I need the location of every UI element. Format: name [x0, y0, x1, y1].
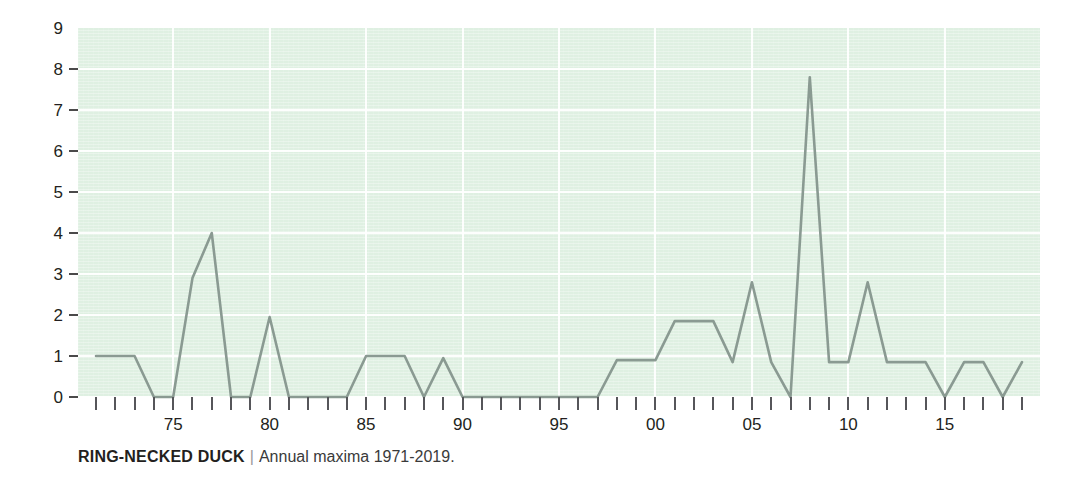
chart-figure: 0123456789 758085909500051015 RING-NECKE…: [0, 0, 1084, 482]
x-axis-tick-label: 95: [550, 415, 569, 435]
x-axis-tick-label: 10: [839, 415, 858, 435]
y-axis-tick-label: 7: [54, 102, 63, 119]
x-axis-tick-label: 85: [357, 415, 376, 435]
x-axis-tick-mark: [886, 397, 888, 410]
y-axis-tick-mark: [69, 314, 78, 316]
y-axis-tick-mark: [69, 150, 78, 152]
y-axis-tick-label: 2: [54, 307, 63, 324]
y-axis-tick-mark: [69, 191, 78, 193]
x-axis-tick-mark: [597, 397, 599, 410]
y-axis-tick: 7: [54, 100, 78, 120]
x-axis-tick-mark: [423, 397, 425, 410]
x-axis-tick-mark: [500, 397, 502, 410]
x-axis-tick-mark: [134, 397, 136, 410]
x-axis-tick-mark: [635, 397, 637, 410]
y-axis-tick-label: 1: [54, 348, 63, 365]
x-axis-tick-mark: [230, 397, 232, 410]
x-axis-tick-mark: [925, 397, 927, 410]
caption-species: RING-NECKED DUCK: [78, 448, 245, 465]
y-axis-tick: 0: [54, 387, 78, 407]
x-axis-tick-label: 15: [935, 415, 954, 435]
y-axis-tick-label: 4: [54, 225, 63, 242]
x-axis-tick-mark: [905, 397, 907, 410]
x-axis-tick-mark: [404, 397, 406, 410]
x-axis-tick-mark: [365, 397, 367, 410]
x-axis-tick-mark: [616, 397, 618, 410]
x-axis-tick-mark: [982, 397, 984, 410]
x-axis-tick-mark: [654, 397, 656, 410]
y-axis-tick: 3: [54, 264, 78, 284]
y-axis-tick-mark: [69, 396, 78, 398]
x-axis-tick-mark: [790, 397, 792, 410]
y-axis-tick: 9: [54, 18, 78, 38]
caption: RING-NECKED DUCK|Annual maxima 1971-2019…: [78, 447, 455, 466]
x-axis-tick-mark: [577, 397, 579, 410]
caption-separator: |: [245, 448, 259, 465]
caption-subtitle: Annual maxima 1971-2019.: [259, 448, 455, 465]
x-axis-tick-mark: [346, 397, 348, 410]
x-axis-tick-label: 05: [742, 415, 761, 435]
x-axis-tick-mark: [751, 397, 753, 410]
y-axis-tick: 2: [54, 305, 78, 325]
x-axis-tick-mark: [269, 397, 271, 410]
y-axis: 0123456789: [0, 0, 78, 400]
plot-area: [78, 28, 1040, 397]
x-axis-tick-mark: [944, 397, 946, 410]
y-axis-tick-label: 5: [54, 184, 63, 201]
x-axis-tick-mark: [770, 397, 772, 410]
x-axis-tick-mark: [674, 397, 676, 410]
y-axis-tick-label: 0: [54, 389, 63, 406]
x-axis-tick-mark: [828, 397, 830, 410]
x-axis-tick-label: 90: [453, 415, 472, 435]
x-axis-tick-mark: [847, 397, 849, 410]
x-axis-tick-mark: [558, 397, 560, 410]
x-axis-tick-mark: [867, 397, 869, 410]
y-axis-tick-mark: [69, 109, 78, 111]
y-axis-tick-mark: [69, 232, 78, 234]
x-axis-tick-label: 75: [164, 415, 183, 435]
x-axis-tick-mark: [519, 397, 521, 410]
x-axis-tick-mark: [249, 397, 251, 410]
y-axis-tick: 8: [54, 59, 78, 79]
x-axis-tick-mark: [191, 397, 193, 410]
x-axis-tick-mark: [539, 397, 541, 410]
x-axis-tick-mark: [384, 397, 386, 410]
x-axis-tick-mark: [442, 397, 444, 410]
x-axis-tick-mark: [172, 397, 174, 410]
x-axis-tick-mark: [481, 397, 483, 410]
y-axis-tick-label: 8: [54, 61, 63, 78]
x-axis-tick-mark: [114, 397, 116, 410]
x-axis-tick-label: 00: [646, 415, 665, 435]
y-axis-tick: 6: [54, 141, 78, 161]
y-axis-tick-mark: [69, 273, 78, 275]
y-axis-tick: 5: [54, 182, 78, 202]
x-axis: 758085909500051015: [78, 397, 1040, 442]
y-axis-tick-label: 6: [54, 143, 63, 160]
x-axis-tick-mark: [809, 397, 811, 410]
y-axis-tick-mark: [69, 355, 78, 357]
y-axis-tick-label: 9: [54, 20, 63, 37]
y-axis-tick-mark: [69, 68, 78, 70]
x-axis-tick-mark: [288, 397, 290, 410]
y-axis-tick-label: 3: [54, 266, 63, 283]
x-axis-tick-mark: [693, 397, 695, 410]
x-axis-tick-mark: [963, 397, 965, 410]
x-axis-tick-mark: [153, 397, 155, 410]
x-axis-tick-mark: [327, 397, 329, 410]
x-axis-tick-label: 80: [260, 415, 279, 435]
data-polyline: [96, 77, 1022, 397]
x-axis-tick-mark: [462, 397, 464, 410]
x-axis-tick-mark: [1021, 397, 1023, 410]
x-axis-tick-mark: [211, 397, 213, 410]
x-axis-tick-mark: [307, 397, 309, 410]
x-axis-tick-mark: [732, 397, 734, 410]
data-line-series: [78, 28, 1040, 397]
x-axis-tick-mark: [95, 397, 97, 410]
y-axis-tick: 1: [54, 346, 78, 366]
x-axis-tick-mark: [712, 397, 714, 410]
y-axis-tick: 4: [54, 223, 78, 243]
x-axis-tick-mark: [1002, 397, 1004, 410]
